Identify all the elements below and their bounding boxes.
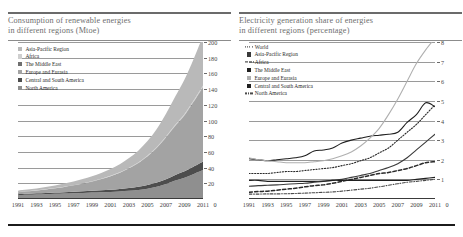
figure-bottom-rule — [8, 224, 455, 226]
legend-label: Central and South America — [25, 77, 84, 83]
right-legend-item: Asia-Pacific Region — [247, 51, 313, 58]
x-tick-label: 1993 — [261, 201, 273, 208]
y-tick — [437, 121, 440, 122]
y-tick — [204, 183, 207, 184]
x-tick-label: 1999 — [317, 201, 329, 208]
left-legend-item: North America — [18, 84, 84, 91]
legend-label: Asia-Pacific Region — [254, 51, 298, 57]
y-tick-label: 160 — [208, 70, 217, 77]
legend-label: World — [255, 44, 268, 50]
chart-panel-electricity: Electricity generation share of energies… — [231, 0, 462, 214]
legend-label: Africa — [255, 59, 269, 65]
legend-swatch-icon — [18, 70, 22, 74]
legend-label: Africa — [25, 53, 39, 59]
y-tick — [437, 140, 440, 141]
panel-top-rule — [8, 12, 231, 14]
left-legend-item: Central and South America — [18, 76, 84, 83]
left-legend-item: Africa — [18, 53, 84, 60]
legend-swatch-icon — [18, 54, 22, 58]
y-tick-label: 4 — [441, 117, 444, 124]
left-chart-title: Consumption of renewable energies in dif… — [8, 16, 218, 37]
y-tick — [437, 81, 440, 82]
x-tick-label: 2001 — [336, 201, 348, 208]
legend-label: North America — [255, 90, 287, 96]
legend-label: Central and South America — [254, 83, 313, 89]
y-tick-label: 1 — [441, 176, 444, 183]
y-tick — [437, 101, 440, 102]
right-legend-item: Europe and Eurasia — [247, 74, 313, 81]
legend-label: The Middle East — [254, 67, 290, 73]
y-tick-label: 3 — [441, 137, 444, 144]
y-tick-label: 40 — [208, 164, 214, 171]
y-tick — [204, 121, 207, 122]
y-tick-label: 140 — [208, 86, 217, 93]
x-tick-label: 2003 — [354, 201, 366, 208]
legend-label: Asia-Pacific Region — [25, 46, 69, 52]
right-legend: WorldAsia-Pacific RegionAfricaThe Middle… — [247, 43, 313, 97]
x-tick-label: 2009 — [178, 201, 190, 208]
x-tick-label: 2005 — [141, 201, 153, 208]
legend-label: North America — [25, 85, 57, 91]
panels-row: Consumption of renewable energies in dif… — [0, 0, 463, 214]
y-tick-label: 5 — [441, 97, 444, 104]
left-y-axis: 20406080100120140160180200 — [204, 42, 230, 199]
line-world — [249, 105, 435, 174]
y-tick-label: 20 — [208, 180, 214, 187]
y-tick — [204, 136, 207, 137]
right-legend-item: North America — [247, 90, 313, 97]
panel-title-rule — [239, 40, 462, 41]
y-tick-label: 80 — [208, 133, 214, 140]
y-tick — [204, 73, 207, 74]
right-legend-item: World — [247, 43, 313, 50]
x-tick-label: 1997 — [299, 201, 311, 208]
y-tick — [204, 152, 207, 153]
x-tick-label: 1993 — [30, 201, 42, 208]
legend-line-dotted-icon — [245, 45, 254, 49]
y-tick-label: 8 — [441, 39, 444, 46]
y-tick — [437, 62, 440, 63]
right-legend-item: Africa — [247, 59, 313, 66]
left-legend-item: The Middle East — [18, 61, 84, 68]
left-x-axis: 1991199319951997199920012003200520072009… — [8, 201, 239, 213]
right-legend-item: The Middle East — [247, 66, 313, 73]
legend-swatch-icon — [18, 78, 22, 82]
left-legend: Asia-Pacific RegionAfricaThe Middle East… — [18, 45, 84, 92]
x-axis-origin-label: 0 — [213, 201, 216, 208]
y-tick — [437, 42, 440, 43]
right-chart-title-line1: Electricity generation share of energies — [239, 16, 449, 26]
left-axis-baseline — [18, 198, 203, 199]
left-legend-item: Asia-Pacific Region — [18, 45, 84, 52]
y-tick-label: 200 — [208, 39, 217, 46]
legend-label: Europe and Eurasia — [254, 75, 296, 81]
x-tick-label: 1999 — [86, 201, 98, 208]
y-tick — [204, 89, 207, 90]
y-tick-label: 120 — [208, 101, 217, 108]
right-legend-item: Central and South America — [247, 82, 313, 89]
chart-panel-consumption: Consumption of renewable energies in dif… — [8, 0, 239, 214]
x-tick-label: 2005 — [373, 201, 385, 208]
y-tick-label: 60 — [208, 148, 214, 155]
legend-swatch-icon — [247, 84, 251, 88]
x-tick-label: 2001 — [104, 201, 116, 208]
y-tick — [204, 105, 207, 106]
legend-swatch-icon — [247, 76, 251, 80]
right-x-axis: 1991199319951997199920012003200520072009… — [231, 201, 462, 213]
left-chart-title-line2: in different regions (Mtoe) — [8, 26, 218, 36]
right-chart-title: Electricity generation share of energies… — [239, 16, 449, 37]
x-tick-label: 2009 — [410, 201, 422, 208]
panel-top-rule — [239, 12, 462, 14]
y-tick — [437, 179, 440, 180]
x-tick-label: 2011 — [429, 201, 441, 208]
right-chart-title-line2: in different regions (percentage) — [239, 26, 449, 36]
y-tick — [437, 160, 440, 161]
y-tick-label: 2 — [441, 156, 444, 163]
legend-swatch-icon — [18, 86, 22, 90]
left-legend-item: Europe and Eurasia — [18, 68, 84, 75]
legend-swatch-icon — [247, 52, 251, 56]
figure-page: Consumption of renewable energies in dif… — [0, 0, 463, 237]
y-tick-label: 180 — [208, 54, 217, 61]
y-tick-label: 100 — [208, 117, 217, 124]
y-tick-label: 6 — [441, 78, 444, 85]
x-tick-label: 1991 — [243, 201, 255, 208]
x-tick-label: 1995 — [49, 201, 61, 208]
